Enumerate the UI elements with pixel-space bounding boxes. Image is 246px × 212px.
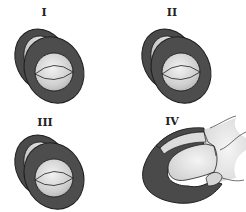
- panel-II-label: II: [157, 6, 187, 19]
- panel-IV-label: IV: [157, 115, 187, 128]
- diagram-canvas: [0, 0, 246, 212]
- panel-III-ring-illustration: [5, 126, 95, 212]
- panel-IV-heart-illustration: [143, 116, 246, 203]
- panel-I-ring-illustration: [5, 20, 95, 113]
- panel-I-label: I: [29, 6, 59, 19]
- panel-II-ring-illustration: [132, 20, 222, 113]
- panel-III-label: III: [30, 116, 60, 129]
